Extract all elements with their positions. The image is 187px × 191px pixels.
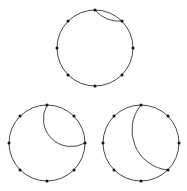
graph-vertex (73, 169, 76, 172)
graph-vertex (8, 142, 11, 145)
graph-vertex (167, 169, 170, 172)
graph-figure-canvas (0, 0, 187, 191)
graph-vertex (94, 85, 97, 88)
graph-vertex (121, 74, 124, 77)
graph-vertex (113, 169, 116, 172)
graph-vertex (67, 20, 70, 23)
graph-vertex (178, 142, 181, 145)
graph-vertex (132, 47, 135, 50)
graph-vertex (140, 104, 143, 107)
graph-vertex (113, 115, 116, 118)
graph-vertex (56, 47, 59, 50)
graph-vertex (73, 115, 76, 118)
graph-vertex (167, 115, 170, 118)
graph-vertex (19, 169, 22, 172)
graph-vertex (19, 115, 22, 118)
graph-vertex (84, 142, 87, 145)
graph-vertex (102, 142, 105, 145)
graph-vertex (140, 180, 143, 183)
graph-vertex (94, 9, 97, 12)
graph-vertex (46, 104, 49, 107)
graph-vertex (121, 20, 124, 23)
graph-vertex (46, 180, 49, 183)
figure-background (0, 0, 187, 191)
graph-vertex (67, 74, 70, 77)
